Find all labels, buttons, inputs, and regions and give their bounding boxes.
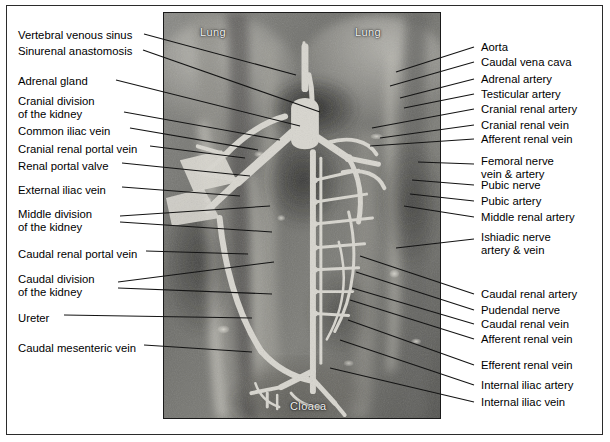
label-line: Adrenal gland [18, 75, 88, 88]
label-line: Testicular artery [481, 88, 561, 101]
label-line: of the kidney [18, 108, 95, 121]
label-caudal-renal-vein[interactable]: Caudal renal vein [481, 318, 569, 331]
label-line: Aorta [481, 41, 508, 54]
label-line: External iliac vein [18, 184, 106, 197]
label-caudal-vena-cava[interactable]: Caudal vena cava [481, 56, 571, 69]
label-line: Renal portal valve [18, 160, 108, 173]
label-adrenal-artery[interactable]: Adrenal artery [481, 73, 552, 86]
label-renal-portal-valve[interactable]: Renal portal valve [18, 160, 108, 173]
label-caudal-renal-portal-vein[interactable]: Caudal renal portal vein [18, 248, 137, 261]
label-line: artery & vein [481, 244, 551, 257]
label-middle-division-kidney[interactable]: Middle division of the kidney [18, 208, 92, 233]
label-line: Ureter [18, 312, 49, 325]
label-line: Cranial renal vein [481, 119, 569, 132]
anatomical-figure: Lung Lung Cloaca [0, 0, 610, 442]
label-line: Pudendal nerve [481, 304, 560, 317]
label-common-iliac-vein[interactable]: Common iliac vein [18, 125, 110, 138]
label-femoral-nerve-vein-artery[interactable]: Femoral nerve vein & artery [481, 155, 554, 180]
label-pudendal-nerve[interactable]: Pudendal nerve [481, 304, 560, 317]
label-line: Caudal renal artery [481, 288, 577, 301]
label-line: of the kidney [18, 286, 95, 299]
label-cranial-division-kidney[interactable]: Cranial division of the kidney [18, 95, 95, 120]
label-ishiadic-nerve-artery-vein[interactable]: Ishiadic nerve artery & vein [481, 231, 551, 256]
label-line: Afferent renal vein [481, 133, 572, 146]
label-line: Caudal renal vein [481, 318, 569, 331]
label-caudal-division-kidney[interactable]: Caudal division of the kidney [18, 273, 95, 298]
label-internal-iliac-vein[interactable]: Internal iliac vein [481, 396, 565, 409]
label-caudal-mesenteric-vein[interactable]: Caudal mesenteric vein [18, 342, 136, 355]
specimen-photograph [163, 12, 441, 419]
label-line: Common iliac vein [18, 125, 110, 138]
label-line: of the kidney [18, 221, 92, 234]
label-vertebral-venous-sinus[interactable]: Vertebral venous sinus [18, 29, 132, 42]
label-line: Cranial renal portal vein [18, 143, 137, 156]
label-external-iliac-vein[interactable]: External iliac vein [18, 184, 106, 197]
label-line: Caudal vena cava [481, 56, 571, 69]
label-afferent-renal-vein-lower[interactable]: Afferent renal vein [481, 333, 572, 346]
label-line: Pubic artery [481, 195, 541, 208]
label-pubic-artery[interactable]: Pubic artery [481, 195, 541, 208]
label-line: Sinurenal anastomosis [18, 45, 132, 58]
label-ureter[interactable]: Ureter [18, 312, 49, 325]
label-line: Vertebral venous sinus [18, 29, 132, 42]
label-testicular-artery[interactable]: Testicular artery [481, 88, 561, 101]
label-line: Pubic nerve [481, 179, 541, 192]
label-pubic-nerve[interactable]: Pubic nerve [481, 179, 541, 192]
label-cranial-renal-artery[interactable]: Cranial renal artery [481, 103, 577, 116]
label-line: Cranial renal artery [481, 103, 577, 116]
label-line: Ishiadic nerve [481, 231, 551, 244]
label-line: Caudal mesenteric vein [18, 342, 136, 355]
label-line: Caudal renal portal vein [18, 248, 137, 261]
label-afferent-renal-vein-upper[interactable]: Afferent renal vein [481, 133, 572, 146]
label-sinurenal-anastomosis[interactable]: Sinurenal anastomosis [18, 45, 132, 58]
label-middle-renal-artery[interactable]: Middle renal artery [481, 211, 575, 224]
label-line: Caudal division [18, 273, 95, 286]
label-aorta[interactable]: Aorta [481, 41, 508, 54]
label-internal-iliac-artery[interactable]: Internal iliac artery [481, 379, 573, 392]
label-line: Cranial division [18, 95, 95, 108]
label-line: Femoral nerve [481, 155, 554, 168]
label-caudal-renal-artery[interactable]: Caudal renal artery [481, 288, 577, 301]
label-efferent-renal-vein[interactable]: Efferent renal vein [481, 359, 572, 372]
label-line: Afferent renal vein [481, 333, 572, 346]
label-cranial-renal-portal-vein[interactable]: Cranial renal portal vein [18, 143, 137, 156]
label-line: Middle division [18, 208, 92, 221]
label-line: Adrenal artery [481, 73, 552, 86]
label-adrenal-gland[interactable]: Adrenal gland [18, 75, 88, 88]
label-cranial-renal-vein[interactable]: Cranial renal vein [481, 119, 569, 132]
label-line: Internal iliac artery [481, 379, 573, 392]
label-line: Middle renal artery [481, 211, 575, 224]
label-line: Internal iliac vein [481, 396, 565, 409]
label-line: Efferent renal vein [481, 359, 572, 372]
